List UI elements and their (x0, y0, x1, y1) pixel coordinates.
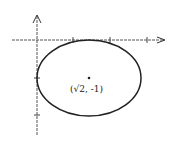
ellipse-diagram (0, 0, 180, 153)
center-label: (√2, -1) (70, 84, 103, 94)
center-point (88, 77, 91, 80)
